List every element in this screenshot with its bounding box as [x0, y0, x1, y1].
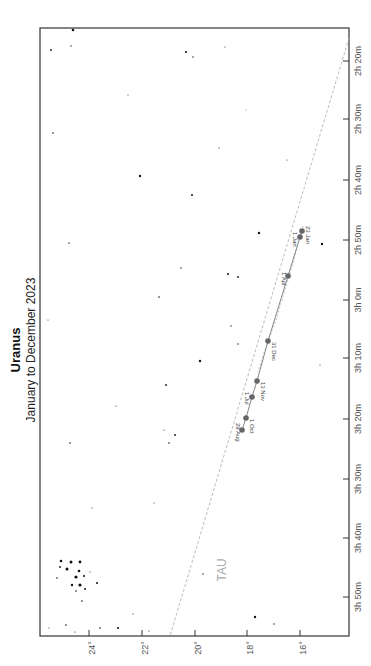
dec-tick-label: 22° [140, 641, 150, 655]
path-point [254, 378, 260, 384]
ra-tick-label: 3h 30m [353, 464, 363, 494]
dec-tick-label: 24° [87, 641, 97, 655]
date-label: 23 Jan [305, 226, 311, 244]
ra-tick-label: 3h 10m [353, 343, 363, 373]
chart-title: Uranus [8, 328, 23, 373]
ra-tick-label: 3h 40m [353, 523, 363, 553]
date-label: 29 Aug [235, 423, 241, 442]
date-label: 1 Oct [249, 419, 255, 434]
date-label: 1 Apr [281, 272, 287, 286]
ra-tick-label: 3h 50m [353, 582, 363, 612]
date-label: 1 Jul [244, 392, 250, 405]
uranus-star-chart: Uranus January to December 2023 2h 20m 2… [0, 0, 371, 666]
dec-tick-label: 20° [193, 641, 203, 655]
ra-tick-label: 2h 40m [353, 165, 363, 195]
date-label: 31 Dec [271, 342, 277, 361]
path-point [265, 338, 271, 344]
ra-tick-label: 2h 20m [353, 46, 363, 76]
constellation-label: TAU [215, 558, 229, 581]
date-label: 13 Nov [260, 382, 266, 401]
ra-tick-label: 3h 20m [353, 404, 363, 434]
path-point [299, 228, 305, 234]
ra-tick-label: 2h 50m [353, 225, 363, 255]
chart-frame [40, 28, 349, 636]
dec-tick-label: 18° [245, 641, 255, 655]
date-label: 1 Jan [292, 232, 298, 247]
ra-tick-label: 2h 30m [353, 104, 363, 134]
ra-tick-label: 3h 0m [353, 287, 363, 312]
path-point [243, 415, 249, 421]
chart-subtitle: January to December 2023 [24, 277, 38, 422]
dec-tick-label: 16° [298, 641, 308, 655]
